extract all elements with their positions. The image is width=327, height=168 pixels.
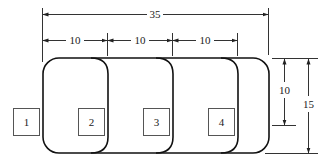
dimension-total-width: 35 [43,8,268,20]
label-segment-1: 10 [70,34,82,46]
dimension-diagram: 35 10 10 10 1 2 3 4 10 [0,0,327,168]
dimension-segment-3: 10 [173,34,237,46]
box-label-2: 2 [89,116,95,128]
label-total-height: 15 [303,98,315,110]
dimension-inner-height: 10 [279,59,291,125]
label-segment-2: 10 [135,34,147,46]
dimension-total-height: 15 [303,59,315,153]
label-inner-height: 10 [279,84,291,96]
dimension-segment-1: 10 [43,34,107,46]
box-label-4: 4 [219,116,225,128]
dimension-segment-2: 10 [108,34,172,46]
label-35: 35 [150,8,162,20]
box-label-3: 3 [154,116,160,128]
rounded-outlines [43,58,269,153]
label-segment-3: 10 [200,34,212,46]
box-label-1: 1 [24,116,30,128]
numbered-boxes: 1 2 3 4 [14,109,235,136]
